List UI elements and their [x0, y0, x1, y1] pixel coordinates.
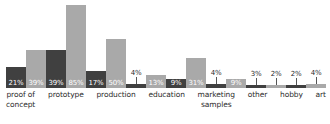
bar-value-label: 9% — [226, 79, 246, 87]
bar-value-label: 3% — [251, 70, 262, 78]
bar-value-label: 21% — [6, 79, 26, 87]
bar-marketing-samples-series-1[interactable]: 9% — [166, 79, 186, 88]
bar-wrap-7-0: 2% — [286, 0, 306, 88]
bar-value-label: 9% — [166, 79, 186, 87]
bar-group-marketing-samples: 9% 31% — [166, 0, 206, 88]
category-label-education: education — [149, 90, 185, 109]
bar-value-label: 39% — [46, 79, 66, 87]
bar-group-hobby: 3% 2% — [246, 0, 286, 88]
bar-prototype-series-2[interactable]: 85% — [66, 5, 86, 88]
bar-hobby-series-2[interactable]: 2% — [266, 85, 286, 88]
bar-value-label: 2% — [271, 70, 282, 78]
bar-art-series-2[interactable]: 4% — [306, 84, 326, 88]
leader-line — [136, 77, 137, 84]
bar-group-art: 2% 4% — [286, 0, 326, 88]
bar-wrap-1-1: 85% — [66, 0, 86, 88]
bar-value-label: 4% — [311, 69, 322, 77]
bar-wrap-7-1: 4% — [306, 0, 326, 88]
plot-area: 21% 39% 39% 85% — [0, 0, 330, 88]
bar-wrap-6-0: 3% — [246, 0, 266, 88]
bar-value-label: 85% — [66, 79, 86, 87]
bar-prototype-series-1[interactable]: 39% — [46, 50, 66, 88]
bar-value-label: 13% — [146, 79, 166, 87]
bar-value-label: 2% — [291, 70, 302, 78]
category-label-prototype: prototype — [48, 90, 84, 109]
bar-wrap-5-1: 9% — [226, 0, 246, 88]
bar-value-label: 4% — [131, 69, 142, 77]
leader-line — [316, 77, 317, 84]
bar-production-series-1[interactable]: 17% — [86, 71, 106, 88]
bar-art-series-1[interactable]: 2% — [286, 85, 306, 88]
bar-group-prototype: 39% 85% — [46, 0, 86, 88]
bar-group-other: 4% 9% — [206, 0, 246, 88]
bar-wrap-2-1: 50% — [106, 0, 126, 88]
grouped-bar-chart: 21% 39% 39% 85% — [0, 0, 330, 124]
category-label-art: art — [316, 90, 326, 109]
bar-hobby-series-1[interactable]: 3% — [246, 85, 266, 88]
bar-value-label: 39% — [26, 79, 46, 87]
bar-proof-of-concept-series-2[interactable]: 39% — [26, 50, 46, 88]
category-label-marketing-samples: marketing samples — [198, 90, 235, 109]
bar-value-label: 50% — [106, 79, 126, 87]
bar-wrap-5-0: 4% — [206, 0, 226, 88]
bar-other-series-2[interactable]: 9% — [226, 79, 246, 88]
bar-wrap-4-0: 9% — [166, 0, 186, 88]
category-axis-labels: proof of concept prototype production ed… — [6, 90, 326, 109]
bar-other-series-1[interactable]: 4% — [206, 84, 226, 88]
bar-wrap-3-1: 13% — [146, 0, 166, 88]
bar-wrap-0-0: 21% — [6, 0, 26, 88]
category-label-other: other — [248, 90, 267, 109]
bar-wrap-2-0: 17% — [86, 0, 106, 88]
bar-value-label: 31% — [186, 79, 206, 87]
bar-groups: 21% 39% 39% 85% — [6, 0, 326, 88]
leader-line — [296, 78, 297, 85]
bar-wrap-6-1: 2% — [266, 0, 286, 88]
bar-value-label: 4% — [211, 69, 222, 77]
bar-marketing-samples-series-2[interactable]: 31% — [186, 58, 206, 88]
bar-proof-of-concept-series-1[interactable]: 21% — [6, 67, 26, 88]
bar-group-proof-of-concept: 21% 39% — [6, 0, 46, 88]
bar-group-production: 17% 50% — [86, 0, 126, 88]
leader-line — [276, 78, 277, 85]
bar-group-education: 4% 13% — [126, 0, 166, 88]
category-label-hobby: hobby — [280, 90, 303, 109]
bar-wrap-3-0: 4% — [126, 0, 146, 88]
bar-value-label: 17% — [86, 79, 106, 87]
bar-wrap-0-1: 39% — [26, 0, 46, 88]
bar-wrap-4-1: 31% — [186, 0, 206, 88]
category-label-production: production — [96, 90, 135, 109]
bar-wrap-1-0: 39% — [46, 0, 66, 88]
leader-line — [256, 78, 257, 85]
bar-education-series-1[interactable]: 4% — [126, 84, 146, 88]
leader-line — [216, 77, 217, 84]
bar-education-series-2[interactable]: 13% — [146, 75, 166, 88]
bar-production-series-2[interactable]: 50% — [106, 39, 126, 88]
category-label-proof-of-concept: proof of concept — [6, 90, 35, 109]
